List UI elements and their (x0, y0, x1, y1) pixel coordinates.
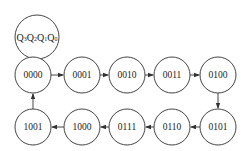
state-label: 1001 (24, 122, 43, 132)
state-label: 0110 (163, 122, 182, 132)
state-label: 0101 (209, 122, 228, 132)
state-node-0110: 0110 (154, 109, 190, 145)
state-node-0010: 0010 (109, 57, 145, 93)
state-diagram: Q3Q2Q1Q0 0000 0001 0010 0011 0100 0101 (0, 0, 241, 151)
state-node-1000: 1000 (64, 109, 100, 145)
state-node-0111: 0111 (109, 109, 145, 145)
legend-node: Q3Q2Q1Q0 (15, 15, 59, 59)
state-label: 1000 (73, 122, 92, 132)
state-label: 0000 (24, 70, 43, 80)
legend-label: Q3Q2Q1Q0 (17, 32, 58, 43)
state-label: 0010 (118, 70, 137, 80)
state-label: 0111 (118, 122, 137, 132)
state-node-0011: 0011 (154, 57, 190, 93)
state-label: 0100 (209, 70, 228, 80)
state-node-0001: 0001 (64, 57, 100, 93)
state-node-0100: 0100 (200, 57, 236, 93)
state-node-1001: 1001 (15, 109, 51, 145)
state-node-0101: 0101 (200, 109, 236, 145)
state-label: 0011 (163, 70, 182, 80)
state-node-0000: 0000 (15, 57, 51, 93)
state-label: 0001 (73, 70, 92, 80)
